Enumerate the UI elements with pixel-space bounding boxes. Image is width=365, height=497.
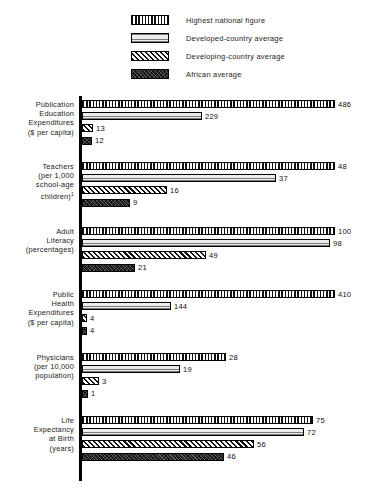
- group-label: AdultLiteracy(percentages): [0, 227, 74, 255]
- bar: [82, 416, 313, 424]
- group-label: PublicationEducationExpenditures($ per c…: [0, 100, 74, 137]
- bar-row: 13: [82, 124, 351, 132]
- bar-chart-figure: Highest national figureDeveloped-country…: [0, 0, 365, 497]
- bar-value-label: 4: [90, 326, 94, 335]
- bar: [82, 428, 304, 436]
- bar: [82, 302, 171, 310]
- bar-value-label: 48: [338, 162, 347, 171]
- bar-value-label: 56: [257, 440, 266, 449]
- bar-value-label: 229: [205, 112, 218, 121]
- vertical-axis-line: [79, 96, 82, 481]
- legend-item-label: African average: [186, 70, 242, 79]
- group-label: PublicHealthExpenditures($ per capita): [0, 290, 74, 327]
- group-label-line: Expenditures: [0, 308, 74, 317]
- bar: [82, 186, 167, 194]
- bar: [82, 377, 99, 385]
- bar-value-label: 486: [338, 100, 351, 109]
- bar: [82, 227, 335, 235]
- bar-row: 46: [82, 453, 325, 461]
- bar-value-label: 98: [333, 239, 342, 248]
- bar-row: 12: [82, 137, 351, 145]
- bar: [82, 264, 135, 272]
- legend-item-label: Developing-country average: [186, 52, 285, 61]
- bar-row: 49: [82, 251, 351, 259]
- legend-item-label: Highest national figure: [186, 16, 265, 25]
- bar-value-label: 75: [316, 416, 325, 425]
- group-label-line: Physicians: [0, 353, 74, 362]
- bar-row: 56: [82, 440, 325, 448]
- bar-value-label: 72: [307, 428, 316, 437]
- group-label-line: Publication: [0, 100, 74, 109]
- group-label-line: Health: [0, 299, 74, 308]
- bar: [82, 124, 93, 132]
- bar: [82, 390, 88, 398]
- group-label: Teachers(per 1,000school-agechildren)1: [0, 162, 74, 201]
- bar: [82, 137, 92, 145]
- footnote-marker: 1: [71, 191, 74, 197]
- bar-row: 16: [82, 186, 347, 194]
- bar-row: 28: [82, 353, 238, 361]
- bar-value-label: 1: [91, 389, 95, 398]
- bar-row: 144: [82, 302, 351, 310]
- bar-row: 21: [82, 264, 351, 272]
- bar: [82, 199, 130, 207]
- group-label-line: (years): [0, 444, 74, 453]
- legend-item: Developed-country average: [131, 31, 351, 45]
- legend-swatch-highest_national: [131, 15, 169, 25]
- bar-row: 98: [82, 239, 351, 247]
- bar-value-label: 13: [96, 124, 105, 133]
- bar: [82, 353, 226, 361]
- group-bars: 41014444: [82, 290, 351, 339]
- bar-row: 410: [82, 290, 351, 298]
- legend-item-label: Developed-country average: [186, 34, 283, 43]
- bar: [82, 162, 335, 170]
- group-label-line: population): [0, 371, 74, 380]
- group-label-line: Life: [0, 416, 74, 425]
- bar-value-label: 37: [279, 174, 288, 183]
- bar-row: 19: [82, 365, 238, 373]
- group-label-line: Public: [0, 290, 74, 299]
- bar-value-label: 46: [227, 452, 236, 461]
- bar: [82, 314, 87, 322]
- bar: [82, 290, 335, 298]
- group-label-line: Expectancy: [0, 425, 74, 434]
- bar-value-label: 12: [95, 136, 104, 145]
- legend-swatch-african: [131, 69, 169, 79]
- group-label-line: ($ per capita): [0, 128, 74, 137]
- group-label-line: at Birth: [0, 434, 74, 443]
- group-label-line: (per 10,000: [0, 362, 74, 371]
- bar-value-label: 49: [209, 251, 218, 260]
- bar: [82, 365, 180, 373]
- bar: [82, 440, 254, 448]
- bar-value-label: 19: [183, 365, 192, 374]
- bar-row: 100: [82, 227, 351, 235]
- group-label: LifeExpectancyat Birth(years): [0, 416, 74, 453]
- bar-row: 4: [82, 327, 351, 335]
- legend-item: African average: [131, 67, 351, 81]
- bar-row: 72: [82, 428, 325, 436]
- bar: [82, 112, 202, 120]
- group-label-line: school-age: [0, 180, 74, 189]
- bar-row: 9: [82, 199, 347, 207]
- legend-item: Developing-country average: [131, 49, 351, 63]
- bar-row: 4: [82, 314, 351, 322]
- bar-row: 3: [82, 377, 238, 385]
- legend-swatch-developing: [131, 51, 169, 61]
- bar-row: 1: [82, 390, 238, 398]
- group-bars: 4837169: [82, 162, 347, 211]
- bar-row: 48: [82, 162, 347, 170]
- group-label-line: (per 1,000: [0, 171, 74, 180]
- group-label-line: children)1: [0, 190, 74, 202]
- bar-value-label: 28: [229, 353, 238, 362]
- group-label-line: ($ per capita): [0, 318, 74, 327]
- group-label-line: Literacy: [0, 236, 74, 245]
- group-label: Physicians(per 10,000population): [0, 353, 74, 381]
- bar-row: 486: [82, 100, 351, 108]
- bar-value-label: 3: [102, 377, 106, 386]
- group-label-line: Education: [0, 109, 74, 118]
- bar: [82, 239, 330, 247]
- bar: [82, 174, 276, 182]
- legend-item: Highest national figure: [131, 13, 351, 27]
- bar-value-label: 21: [138, 263, 147, 272]
- chart-legend: Highest national figureDeveloped-country…: [131, 13, 351, 85]
